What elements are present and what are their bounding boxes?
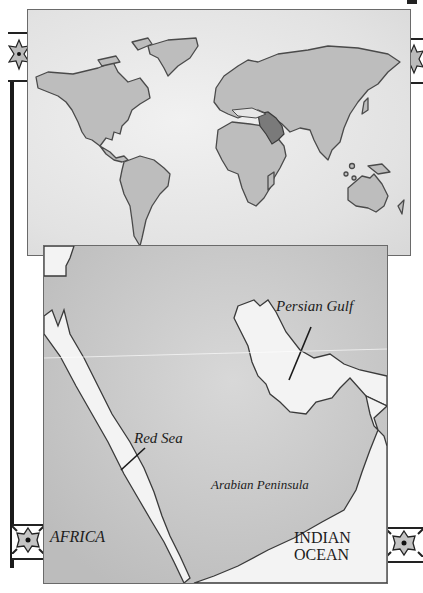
indonesia-dot (344, 172, 348, 176)
central-america (100, 146, 128, 162)
star-tile-icon (386, 529, 423, 557)
japan (362, 98, 368, 114)
label-indian-ocean: INDIAN OCEAN (294, 529, 351, 563)
world-map-graphic (28, 10, 410, 255)
label-indian-ocean-line2: OCEAN (294, 546, 351, 563)
greenland (148, 38, 198, 76)
label-arabian-peninsula: Arabian Peninsula (211, 477, 309, 493)
inset-map-arabia: Persian Gulf Red Sea Arabian Peninsula A… (43, 245, 388, 584)
label-red-sea: Red Sea (134, 430, 183, 447)
label-africa: AFRICA (50, 528, 105, 546)
south-america (120, 156, 170, 246)
new-guinea (368, 164, 390, 174)
north-america (36, 62, 150, 146)
decorative-tile-bottom-right (386, 527, 423, 563)
decorative-tile-bottom-left (12, 524, 44, 560)
new-zealand (398, 200, 404, 214)
indonesia-dot (352, 176, 356, 180)
arctic-island-2 (98, 56, 120, 66)
indonesia-dot (350, 164, 355, 169)
corner-mark (407, 0, 417, 4)
label-indian-ocean-line1: INDIAN (294, 529, 351, 546)
label-persian-gulf: Persian Gulf (276, 298, 353, 315)
madagascar (268, 172, 274, 190)
decorative-left-bar (10, 32, 14, 568)
star-tile-icon (12, 526, 44, 554)
world-map (27, 9, 411, 256)
